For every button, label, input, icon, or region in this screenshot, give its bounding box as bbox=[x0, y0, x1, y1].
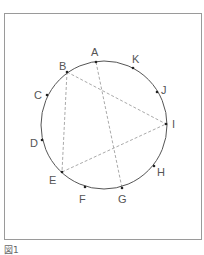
chord-EI bbox=[62, 124, 166, 172]
point-F bbox=[84, 186, 87, 189]
label-K: K bbox=[132, 53, 140, 65]
circle-diagram: ABCDEFGHIJK bbox=[0, 0, 204, 255]
label-H: H bbox=[157, 166, 165, 178]
point-E bbox=[61, 171, 64, 174]
point-K bbox=[132, 67, 135, 70]
point-I bbox=[165, 123, 168, 126]
circle bbox=[41, 61, 167, 189]
point-labels: ABCDEFGHIJK bbox=[30, 46, 175, 205]
label-D: D bbox=[30, 137, 38, 149]
point-H bbox=[153, 165, 156, 168]
chord-AG bbox=[96, 62, 122, 188]
point-C bbox=[46, 94, 49, 97]
chord-BI bbox=[67, 72, 166, 124]
label-G: G bbox=[118, 193, 127, 205]
point-G bbox=[121, 187, 124, 190]
point-D bbox=[41, 139, 44, 142]
label-B: B bbox=[59, 60, 66, 72]
chord-BE bbox=[62, 72, 67, 172]
label-I: I bbox=[172, 118, 175, 130]
dashed-chords bbox=[62, 62, 166, 188]
point-J bbox=[156, 91, 159, 94]
point-A bbox=[95, 61, 98, 64]
label-E: E bbox=[49, 174, 56, 186]
label-F: F bbox=[79, 193, 86, 205]
label-C: C bbox=[34, 89, 42, 101]
label-J: J bbox=[161, 84, 167, 96]
label-A: A bbox=[91, 46, 99, 58]
figure-caption: 図1 bbox=[4, 243, 19, 255]
